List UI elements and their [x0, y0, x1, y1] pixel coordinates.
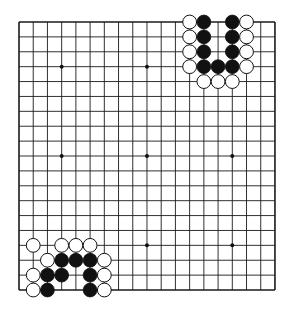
star-point [145, 154, 149, 158]
white-stone[interactable] [240, 30, 254, 44]
black-stone[interactable] [197, 60, 211, 74]
star-point [230, 243, 234, 247]
black-stone[interactable] [41, 268, 55, 282]
black-stone[interactable] [83, 268, 97, 282]
black-stone[interactable] [83, 253, 97, 267]
black-stone[interactable] [41, 283, 55, 297]
white-stone[interactable] [240, 60, 254, 74]
white-stone[interactable] [97, 253, 111, 267]
black-stone[interactable] [225, 15, 239, 29]
black-stone[interactable] [197, 30, 211, 44]
white-stone[interactable] [211, 75, 225, 89]
white-stone[interactable] [225, 75, 239, 89]
black-stone[interactable] [225, 45, 239, 59]
white-stone[interactable] [69, 238, 83, 252]
white-stone[interactable] [83, 238, 97, 252]
black-stone[interactable] [211, 60, 225, 74]
white-stone[interactable] [240, 45, 254, 59]
white-stone[interactable] [183, 45, 197, 59]
white-stone[interactable] [183, 30, 197, 44]
black-stone[interactable] [55, 253, 69, 267]
white-stone[interactable] [55, 238, 69, 252]
star-point [60, 65, 64, 69]
black-stone[interactable] [225, 60, 239, 74]
black-stone[interactable] [83, 283, 97, 297]
white-stone[interactable] [97, 283, 111, 297]
star-point [60, 154, 64, 158]
white-stone[interactable] [197, 75, 211, 89]
black-stone[interactable] [197, 45, 211, 59]
go-board[interactable] [0, 0, 292, 313]
star-point [145, 65, 149, 69]
white-stone[interactable] [240, 15, 254, 29]
black-stone[interactable] [197, 15, 211, 29]
white-stone[interactable] [26, 238, 40, 252]
black-stone[interactable] [55, 268, 69, 282]
black-stone[interactable] [225, 30, 239, 44]
white-stone[interactable] [97, 268, 111, 282]
star-point [145, 243, 149, 247]
white-stone[interactable] [183, 15, 197, 29]
white-stone[interactable] [26, 283, 40, 297]
star-point [230, 154, 234, 158]
white-stone[interactable] [41, 253, 55, 267]
black-stone[interactable] [69, 253, 83, 267]
white-stone[interactable] [26, 268, 40, 282]
white-stone[interactable] [183, 60, 197, 74]
